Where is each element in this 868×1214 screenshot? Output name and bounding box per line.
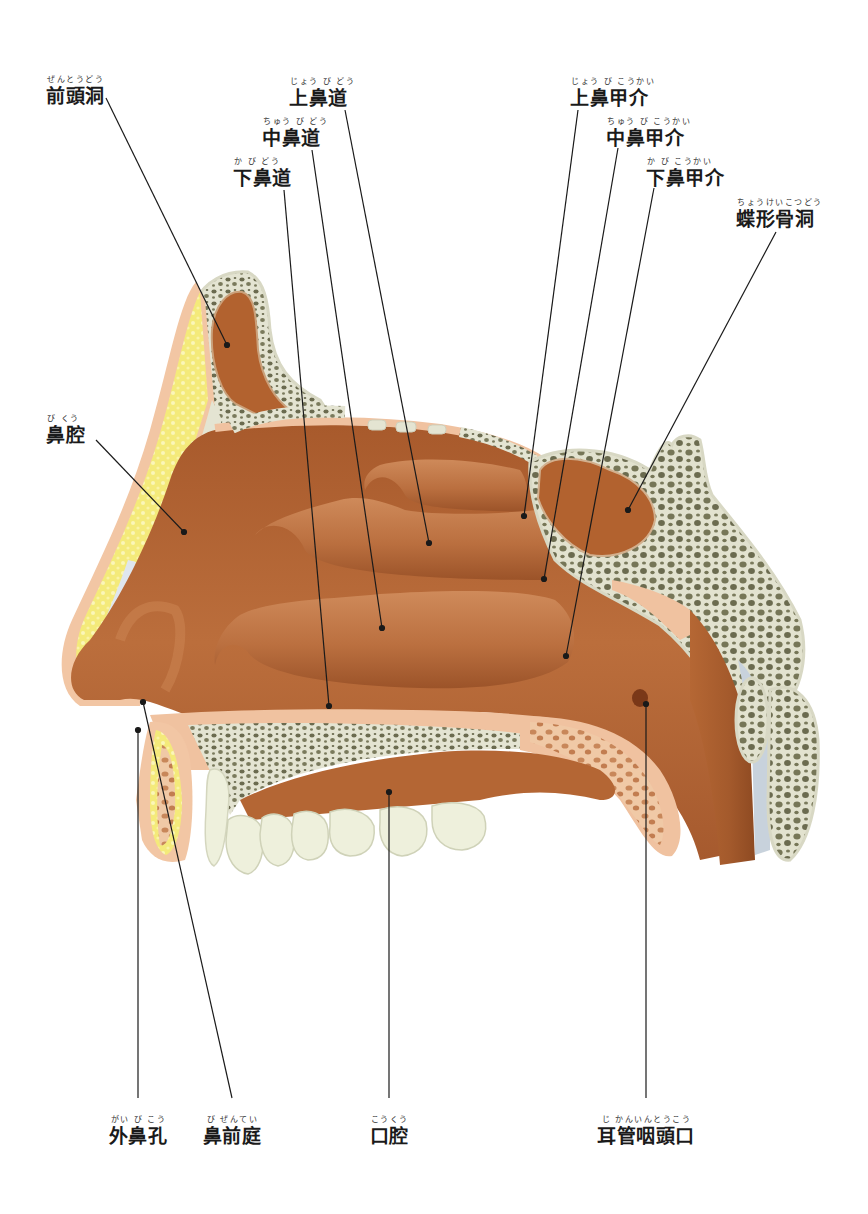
- label-eustachian-opening: じ かんいんとうこう 耳管咽頭口: [597, 1115, 695, 1147]
- label-text: 口腔: [370, 1125, 409, 1147]
- ruby: か び こうかい: [646, 157, 724, 166]
- label-middle-meatus: ちゅう び どう 中鼻道: [262, 117, 328, 149]
- label-text: 下鼻道: [233, 167, 292, 189]
- label-inferior-meatus: か び どう 下鼻道: [233, 157, 292, 189]
- ruby: じ かんいんとうこう: [597, 1115, 695, 1124]
- ruby: び ぜんてい: [203, 1115, 262, 1124]
- label-nasal-vestibule: び ぜんてい 鼻前庭: [203, 1115, 262, 1147]
- label-text: 中鼻甲介: [606, 127, 691, 149]
- label-nasal-cavity: び くう 鼻腔: [46, 414, 85, 446]
- label-middle-concha: ちゅう び こうかい 中鼻甲介: [606, 117, 691, 149]
- label-superior-meatus: じょう び どう 上鼻道: [289, 77, 355, 109]
- ruby: がい び こう: [109, 1115, 168, 1124]
- label-text: 前頭洞: [46, 85, 105, 107]
- ruby: じょう び どう: [289, 77, 355, 86]
- label-text: 蝶形骨洞: [736, 208, 823, 230]
- label-frontal-sinus: ぜんとうどう 前頭洞: [46, 75, 105, 107]
- label-superior-concha: じょう び こうかい 上鼻甲介: [570, 77, 655, 109]
- nasal-cavity-illustration: [0, 0, 868, 1214]
- upper-lip: [136, 722, 192, 862]
- vertebra-upper: [736, 678, 768, 762]
- label-text: 下鼻甲介: [646, 167, 724, 189]
- ruby: じょう び こうかい: [570, 77, 655, 86]
- label-oral-cavity: こうくう 口腔: [370, 1115, 409, 1147]
- label-sphenoid-sinus: ちょうけいこつどう 蝶形骨洞: [736, 198, 823, 230]
- label-text: 耳管咽頭口: [597, 1125, 695, 1147]
- label-nostril: がい び こう 外鼻孔: [109, 1115, 168, 1147]
- label-text: 上鼻道: [289, 87, 355, 109]
- ruby: ちょうけいこつどう: [736, 198, 823, 207]
- label-inferior-concha: か び こうかい 下鼻甲介: [646, 157, 724, 189]
- label-text: 鼻前庭: [203, 1125, 262, 1147]
- label-text: 鼻腔: [46, 424, 85, 446]
- ruby: ぜんとうどう: [46, 75, 105, 84]
- label-text: 上鼻甲介: [570, 87, 655, 109]
- label-text: 中鼻道: [262, 127, 328, 149]
- ruby: ちゅう び こうかい: [606, 117, 691, 126]
- ruby: か び どう: [233, 157, 292, 166]
- label-text: 外鼻孔: [109, 1125, 168, 1147]
- vertebra-lower: [768, 687, 818, 860]
- ruby: び くう: [46, 414, 85, 423]
- incisor: [205, 769, 229, 866]
- ruby: ちゅう び どう: [262, 117, 328, 126]
- ruby: こうくう: [370, 1115, 409, 1124]
